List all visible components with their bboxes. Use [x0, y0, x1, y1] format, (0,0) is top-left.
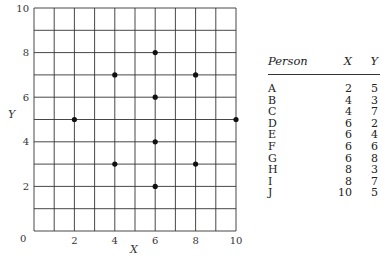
y-axis-label: Y	[8, 108, 17, 121]
cell-y: 5	[352, 83, 378, 95]
cell-person: B	[268, 95, 330, 107]
y-tick-label: 8	[23, 47, 29, 58]
table-header: Person X Y	[268, 52, 380, 70]
data-point-D	[153, 184, 158, 189]
cell-y: 5	[352, 187, 378, 199]
table-row: G68	[268, 153, 380, 165]
cell-person: A	[268, 83, 330, 95]
data-point-F	[153, 95, 158, 100]
data-point-E	[153, 139, 158, 144]
cell-x: 2	[330, 83, 352, 95]
table-body: A25B43C47D62E64F66G68H83I87J105	[268, 83, 380, 199]
y-tick-label: 4	[23, 136, 29, 147]
cell-x: 8	[330, 164, 352, 176]
data-point-J	[233, 117, 238, 122]
cell-y: 6	[352, 141, 378, 153]
table-row: E64	[268, 129, 380, 141]
cell-person: I	[268, 176, 330, 188]
x-tick-label: 2	[71, 235, 77, 246]
header-person: Person	[268, 54, 330, 68]
data-table: Person X Y A25B43C47D62E64F66G68H83I87J1…	[268, 52, 380, 199]
x-tick-label: 6	[152, 235, 158, 246]
data-point-B	[112, 162, 117, 167]
x-tick-label: 4	[112, 235, 118, 246]
table-row: C47	[268, 106, 380, 118]
origin-label: 0	[20, 233, 26, 244]
cell-x: 6	[330, 141, 352, 153]
table-row: J105	[268, 187, 380, 199]
cell-person: E	[268, 129, 330, 141]
header-x: X	[330, 54, 352, 68]
data-point-H	[193, 162, 198, 167]
x-axis-label: X	[129, 243, 139, 256]
cell-person: D	[268, 118, 330, 130]
table-row: B43	[268, 95, 380, 107]
x-tick-label: 8	[192, 235, 198, 246]
table-row: I87	[268, 176, 380, 188]
cell-y: 3	[352, 164, 378, 176]
cell-person: C	[268, 106, 330, 118]
x-tick-label: 10	[230, 235, 243, 246]
data-point-G	[153, 50, 158, 55]
table-row: A25	[268, 83, 380, 95]
data-point-C	[112, 72, 117, 77]
y-tick-label: 10	[16, 3, 29, 14]
header-y: Y	[352, 54, 378, 68]
plot-grid	[34, 8, 236, 231]
y-tick-label: 2	[23, 181, 29, 192]
data-point-A	[72, 117, 77, 122]
table-row: F66	[268, 141, 380, 153]
table-row: H83	[268, 164, 380, 176]
cell-x: 10	[330, 187, 352, 199]
cell-person: F	[268, 141, 330, 153]
cell-person: H	[268, 164, 330, 176]
scatter-plot: 246810246810 Y X 0	[0, 0, 260, 260]
y-tick-label: 6	[23, 92, 29, 103]
header-rule	[268, 74, 380, 75]
tick-labels: 246810246810	[16, 3, 242, 247]
table-row: D62	[268, 118, 380, 130]
cell-person: J	[268, 187, 330, 199]
data-point-I	[193, 72, 198, 77]
